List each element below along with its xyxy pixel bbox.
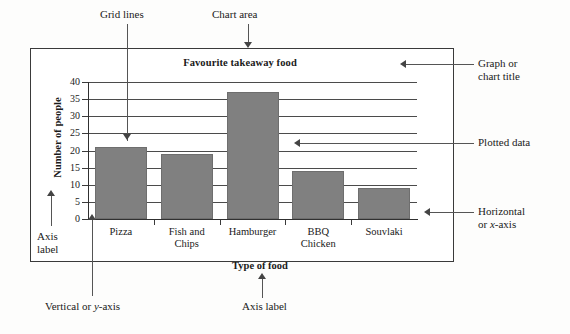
x-tick-label-line: Fish and [154,226,220,238]
annotation-grid-lines: Grid lines [100,8,144,21]
leader-line-grid-lines [127,24,128,141]
y-tick-mark [82,185,88,186]
x-tick-label: Souvlaki [351,226,417,238]
y-tick-mark [82,151,88,152]
y-tick-label: 40 [60,77,80,87]
leader-line-vertical-axis [92,220,93,296]
y-tick-label: 10 [60,180,80,190]
annotation-axis-label-left-line1: Axis [37,230,58,243]
x-tick-label-line: BBQ [285,226,351,238]
y-axis-line [88,82,89,220]
x-tick-label-line: Hamburger [220,226,286,238]
annotated-bar-chart-figure: Favourite takeaway food 0510152025303540… [0,0,570,334]
x-tick-label-line: Chips [154,238,220,250]
y-tick-mark [82,82,88,83]
x-tick-label: Hamburger [220,226,286,238]
x-tick-mark [351,220,352,225]
bar-hamburger [227,92,279,219]
annotation-graph-title-line1: Graph or [478,57,517,70]
x-tick-label: Fish andChips [154,226,220,250]
y-tick-mark [82,168,88,169]
x-tick-label-line: Pizza [88,226,154,238]
y-axis-title: Number of people [52,78,63,198]
annotation-vertical-axis: Vertical or y-axis [45,300,120,313]
y-tick-mark [82,116,88,117]
annotation-horizontal-axis-line2: or x-axis [478,218,516,231]
arrow-up-icon-axis-label-bottom [258,273,266,279]
bar-pizza [95,147,147,219]
annotation-axis-label-bottom: Axis label [242,300,287,313]
annotation-graph-title-line2: chart title [478,70,520,83]
x-tick-label-line: Souvlaki [351,226,417,238]
y-tick-mark [82,133,88,134]
leader-line-horizontal-axis [428,212,474,213]
bar-bbq-chicken [292,171,344,219]
x-tick-label: BBQChicken [285,226,351,250]
y-tick-label: 35 [60,94,80,104]
x-tick-label: Pizza [88,226,154,238]
leader-line-axis-label-left [51,196,52,226]
annotation-vertical-axis-text: Vertical or y-axis [45,300,120,312]
x-tick-label-line: Chicken [285,238,351,250]
bar-fish-and-chips [161,154,213,219]
leader-line-axis-label-bottom [262,279,263,298]
x-tick-mark [285,220,286,225]
leader-line-graph-title [404,64,474,65]
arrow-up-icon-vertical-axis [88,214,96,220]
arrow-left-icon-horizontal-axis [424,208,430,216]
annotation-axis-label-left-line2: label [37,243,58,256]
annotation-horizontal-axis-line1: Horizontal [478,205,525,218]
x-tick-mark [220,220,221,225]
x-tick-mark [154,220,155,225]
y-tick-label: 15 [60,163,80,173]
arrow-left-icon-plotted-data [294,139,300,147]
x-axis-line [88,219,418,220]
arrow-left-icon-graph-title [400,60,406,68]
arrow-up-icon-axis-label-left [47,190,55,196]
gridline [88,82,417,83]
y-tick-mark [82,99,88,100]
arrow-down-icon-chart-area [244,42,252,48]
y-tick-label: 30 [60,111,80,121]
leader-line-plotted-data [298,143,474,144]
y-tick-label: 25 [60,128,80,138]
annotation-chart-area: Chart area [212,8,258,21]
y-tick-label: 5 [60,197,80,207]
bar-souvlaki [358,188,410,219]
y-tick-label: 20 [60,146,80,156]
y-tick-label: 0 [60,214,80,224]
x-axis-title: Type of food [180,260,340,271]
annotation-horizontal-axis-text: or x-axis [478,218,516,230]
chart-title: Favourite takeaway food [90,57,390,68]
y-tick-mark [82,202,88,203]
arrow-down-icon-grid-lines [123,134,131,140]
annotation-plotted-data: Plotted data [478,136,530,149]
